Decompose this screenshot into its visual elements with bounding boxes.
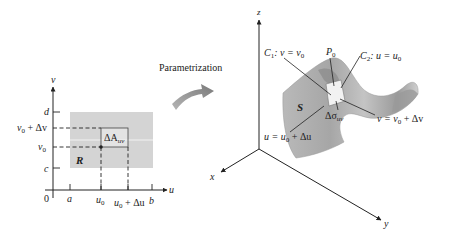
- point-p0-label: P0: [325, 46, 336, 59]
- tick-v0: v0: [38, 141, 46, 154]
- y-axis-label: y: [383, 218, 389, 229]
- tick-c: c: [44, 163, 49, 174]
- v-axis-label: v: [51, 74, 56, 85]
- tick-u0: u0: [96, 194, 105, 207]
- surface-label: S: [297, 101, 303, 113]
- tick-u0-plus-du: u0 + Δu: [114, 197, 145, 210]
- x-axis-label: x: [209, 171, 215, 182]
- uv-plane: v u 0 d v0 + Δv v0 c a u0 u0 + Δu b R ΔA…: [17, 74, 174, 210]
- y-axis: [259, 149, 381, 220]
- z-axis-label: z: [256, 7, 261, 17]
- tick-a: a: [67, 193, 72, 204]
- surface-3d: z x y C1: v = v0 P0 C2: u = u0 S Δσuv v …: [209, 7, 423, 229]
- point-u0-v0: [99, 145, 103, 149]
- origin-label: 0: [44, 193, 49, 204]
- parametrization-diagram: v u 0 d v0 + Δv v0 c a u0 u0 + Δu b R ΔA…: [0, 0, 450, 241]
- region-label: R: [75, 154, 83, 166]
- parametrization-arrow: Parametrization: [159, 62, 222, 110]
- x-axis: [221, 149, 259, 172]
- curved-arrow-icon: [172, 84, 214, 110]
- u-axis-label: u: [169, 184, 174, 195]
- curve-c2-label: C2: u = u0: [360, 50, 402, 63]
- tick-b: b: [149, 195, 154, 206]
- tick-d: d: [44, 106, 50, 117]
- tick-v0-plus-dv: v0 + Δv: [17, 122, 47, 135]
- parametrization-label: Parametrization: [159, 62, 222, 73]
- edge-v-label: v = v0 + Δv: [377, 113, 423, 126]
